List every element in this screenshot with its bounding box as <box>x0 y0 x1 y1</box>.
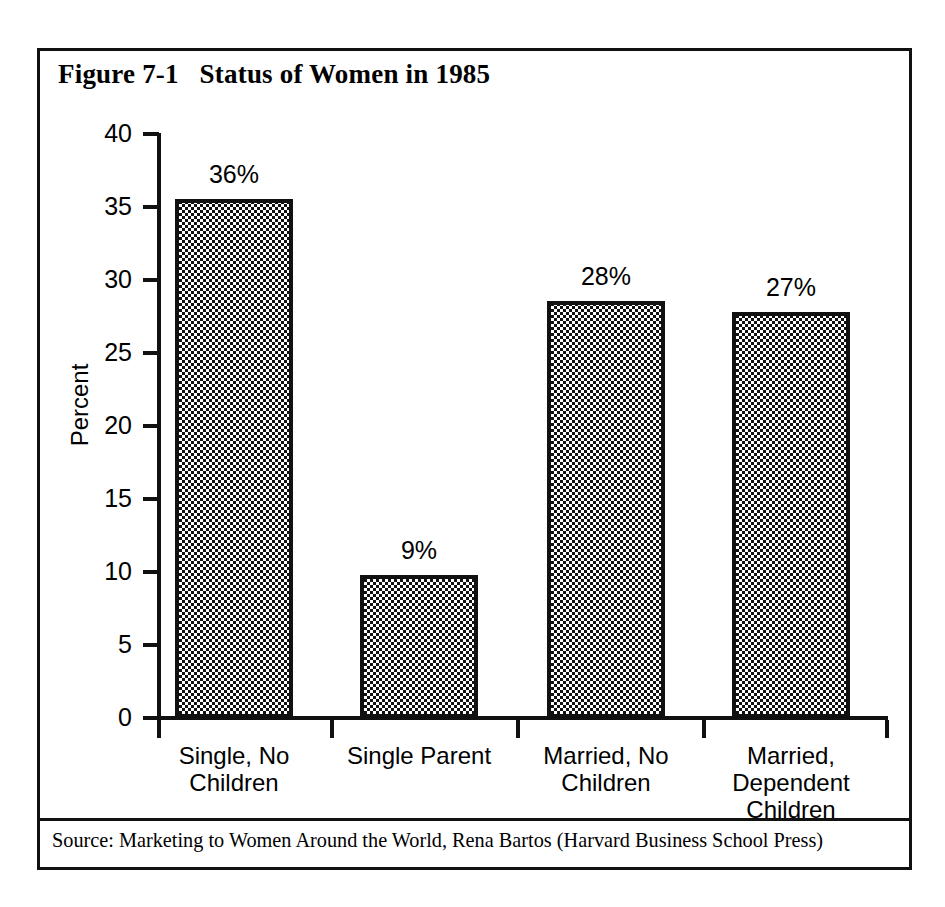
y-axis-title: Percent <box>66 325 94 485</box>
x-category-label-1-line-0: Single Parent <box>326 743 512 770</box>
y-tick-20 <box>143 424 159 428</box>
chart-plot-area: 40 35 30 25 20 15 10 5 0 Percent 36% 9% … <box>40 51 915 873</box>
bar-value-single-no-children: 36% <box>154 162 314 187</box>
y-tick-label-0: 0 <box>62 705 132 730</box>
x-tick-1 <box>330 720 334 738</box>
bar-single-parent <box>360 575 478 718</box>
x-category-label-2-line-0: Married, No <box>513 743 699 770</box>
x-category-label-0-line-0: Single, No <box>141 743 327 770</box>
source-divider <box>40 818 909 821</box>
y-tick-label-40: 40 <box>62 121 132 146</box>
bar-single-no-children <box>175 199 293 718</box>
figure-panel: Figure 7-1 Status of Women in 1985 40 35… <box>37 48 912 870</box>
x-category-label-3: Married, Dependent Children <box>698 743 884 824</box>
bar-married-dependent-children <box>732 312 850 718</box>
x-category-label-3-line-1: Dependent <box>698 770 884 797</box>
y-tick-10 <box>143 570 159 574</box>
x-tick-4 <box>885 720 889 738</box>
bar-value-married-dependent-children: 27% <box>711 275 871 300</box>
bar-value-married-no-children: 28% <box>526 264 686 289</box>
x-category-label-1: Single Parent <box>326 743 512 770</box>
y-tick-5 <box>143 643 159 647</box>
source-note: Source: Marketing to Women Around the Wo… <box>52 828 823 853</box>
x-category-label-2: Married, No Children <box>513 743 699 797</box>
y-tick-label-10: 10 <box>62 559 132 584</box>
y-tick-25 <box>143 351 159 355</box>
x-category-label-2-line-1: Children <box>513 770 699 797</box>
x-category-label-3-line-0: Married, <box>698 743 884 770</box>
y-tick-15 <box>143 497 159 501</box>
x-category-label-0-line-1: Children <box>141 770 327 797</box>
y-tick-30 <box>143 278 159 282</box>
x-category-label-0: Single, No Children <box>141 743 327 797</box>
bar-value-single-parent: 9% <box>339 538 499 563</box>
y-tick-label-35: 35 <box>62 194 132 219</box>
x-tick-3 <box>702 720 706 738</box>
y-tick-label-5: 5 <box>62 632 132 657</box>
x-tick-2 <box>516 720 520 738</box>
y-tick-label-15: 15 <box>62 486 132 511</box>
x-tick-0 <box>157 720 161 738</box>
y-tick-label-30: 30 <box>62 267 132 292</box>
y-tick-40 <box>143 132 159 136</box>
bar-married-no-children <box>547 301 665 718</box>
y-tick-35 <box>143 205 159 209</box>
